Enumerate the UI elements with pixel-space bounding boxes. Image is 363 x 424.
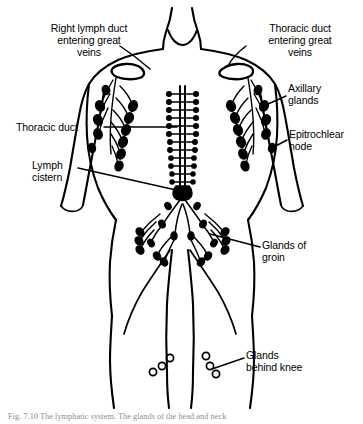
label-axillary-glands: Axillary glands bbox=[288, 82, 358, 106]
groin-lymph-nodes bbox=[134, 200, 232, 267]
thoracic-duct-oval bbox=[219, 64, 253, 79]
central-thoracic-duct bbox=[167, 86, 199, 201]
shoulder-left bbox=[79, 49, 163, 116]
neck-right-line bbox=[192, 8, 201, 49]
arm-left-end bbox=[61, 205, 83, 211]
hip-left bbox=[110, 220, 116, 316]
sternal-notch bbox=[168, 30, 197, 45]
neck-left-line bbox=[163, 8, 172, 49]
label-glands-behind-knee: Glands behind knee bbox=[246, 349, 338, 373]
lymphatic-system-figure: Right lymph duct entering great veins Th… bbox=[0, 0, 363, 424]
leader-glands-behind-knee bbox=[212, 358, 244, 369]
label-thoracic-duct: Thoracic duct bbox=[16, 121, 106, 133]
knee-glands bbox=[149, 352, 219, 377]
shoulder-right bbox=[201, 49, 285, 116]
label-epitrochlear-node: Epitrochlear node bbox=[289, 128, 363, 152]
label-right-lymph-duct: Right lymph duct entering great veins bbox=[24, 22, 154, 59]
right-lymph-duct-oval bbox=[112, 64, 144, 79]
figure-caption: Fig. 7.10 The lymphatic system. The glan… bbox=[8, 412, 358, 422]
hip-right bbox=[248, 220, 254, 316]
leg-left-inner bbox=[166, 250, 172, 408]
leader-lymph-cistern bbox=[78, 168, 176, 190]
label-lymph-cistern: Lymph cistern bbox=[32, 159, 92, 183]
arm-right-end bbox=[281, 205, 303, 211]
leg-right-inner bbox=[188, 250, 194, 408]
label-thoracic-duct-entering-great-veins: Thoracic duct entering great veins bbox=[244, 22, 356, 59]
knee-glands-left bbox=[149, 354, 173, 375]
great-vein-ducts bbox=[112, 64, 253, 79]
leg-left-outer bbox=[110, 316, 114, 408]
knee-glands-right bbox=[202, 352, 219, 377]
duct-rungs bbox=[171, 94, 194, 182]
lymph-cistern-sac bbox=[173, 186, 192, 201]
duct-side-nodes bbox=[167, 92, 199, 184]
label-glands-of-groin: Glands of groin bbox=[262, 239, 344, 263]
body-outline bbox=[61, 8, 303, 408]
groin-node-dots bbox=[134, 201, 232, 267]
